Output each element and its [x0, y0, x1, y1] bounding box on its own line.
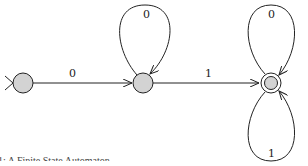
state-q2-accepting: [261, 73, 281, 93]
state-q0: [13, 73, 33, 93]
transition-label: 0: [143, 8, 150, 21]
state-q1: [133, 73, 153, 93]
transition-label: 0: [268, 8, 275, 21]
initial-state-marker: [5, 76, 13, 90]
transition-label: 0: [69, 67, 76, 80]
automaton-diagram: 0 0 1 0 1: [0, 0, 308, 166]
transition-label: 1: [268, 147, 275, 160]
figure-caption: 1: A Finite State Automaton: [0, 155, 110, 161]
transition-label: 1: [205, 67, 212, 80]
